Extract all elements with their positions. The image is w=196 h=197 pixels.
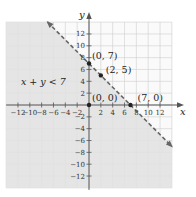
y-tick-label: −6 [75, 137, 86, 145]
y-tick-label: −10 [70, 161, 85, 169]
point-label: (2, 5) [106, 64, 132, 75]
x-tick-label: 12 [156, 109, 165, 117]
y-tick-label: 6 [81, 66, 86, 74]
y-tick-label: 2 [81, 90, 85, 98]
data-point-icon [128, 103, 132, 107]
y-axis-label: y [78, 9, 85, 20]
point-label: (7, 0) [137, 92, 163, 103]
x-tick-label: 8 [134, 109, 138, 117]
data-point-icon [87, 61, 91, 65]
y-tick-label: −8 [75, 149, 85, 157]
inequality-graph: −12−10−8−6−4−22468101212108642−2−4−6−8−1… [0, 0, 196, 197]
y-tick-label: −4 [75, 125, 86, 133]
y-tick-label: 12 [76, 30, 85, 38]
data-point-icon [99, 73, 103, 77]
x-tick-label: 10 [144, 109, 153, 117]
inequality-label: x + y < 7 [21, 76, 67, 87]
x-tick-label: 6 [122, 109, 127, 117]
y-tick-label: 10 [76, 42, 85, 50]
y-tick-label: −2 [75, 113, 85, 121]
x-tick-label: 2 [99, 109, 103, 117]
x-axis-label: x [180, 106, 186, 117]
point-label: (0, 0) [92, 92, 118, 103]
y-tick-label: −12 [70, 173, 85, 181]
x-tick-label: −8 [36, 109, 46, 117]
data-point-icon [87, 103, 91, 107]
x-tick-label: −6 [48, 109, 59, 117]
y-tick-label: 4 [81, 78, 86, 86]
x-tick-label: −4 [60, 109, 71, 117]
point-label: (0, 7) [92, 50, 118, 61]
x-tick-label: 4 [110, 109, 115, 117]
y-axis-arrow-icon [86, 12, 91, 19]
x-tick-label: −10 [22, 109, 37, 117]
y-tick-label: 8 [81, 54, 85, 62]
